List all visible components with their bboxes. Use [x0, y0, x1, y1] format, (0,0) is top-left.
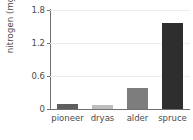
x-axis-line — [50, 109, 190, 110]
y-axis-tick-mark — [47, 43, 50, 44]
y-axis-tick-mark — [47, 10, 50, 11]
bar-chart: nitrogen (mg/g) 00.61.21.8 pioneerdryasa… — [0, 0, 193, 140]
bar-alder — [127, 88, 149, 109]
x-axis-label-spruce: spruce — [155, 114, 190, 123]
bar-dryas — [92, 105, 114, 109]
bar-pioneer — [57, 104, 79, 109]
plot-area: 00.61.21.8 — [50, 10, 190, 109]
bar-spruce — [162, 23, 184, 109]
gridline — [50, 10, 190, 11]
y-axis-tick-label: 1.2 — [31, 39, 45, 48]
y-axis-tick-label: 0.6 — [31, 72, 45, 81]
y-axis-title: nitrogen (mg/g) — [4, 0, 16, 67]
x-axis-label-pioneer: pioneer — [50, 114, 85, 123]
y-axis-tick-mark — [47, 76, 50, 77]
x-axis-label-dryas: dryas — [85, 114, 120, 123]
y-axis-tick-label: 1.8 — [31, 6, 45, 15]
y-axis-tick-label: 0 — [40, 105, 45, 114]
y-axis-tick-mark — [47, 109, 50, 110]
x-axis-label-alder: alder — [120, 114, 155, 123]
